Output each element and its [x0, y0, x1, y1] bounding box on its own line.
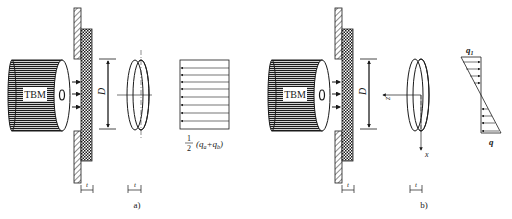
tbm-label: TBM	[284, 89, 306, 100]
wall-thickness: t	[81, 181, 93, 193]
caption-b: b)	[420, 200, 428, 210]
diameter-label: D	[357, 87, 368, 96]
axis-z-label: z	[383, 96, 392, 101]
linear-load-diagram: q1 q	[461, 45, 501, 147]
diagram-canvas: TBM D t	[0, 0, 512, 219]
tunnel-wall	[74, 8, 92, 183]
fraction-denominator: 2	[187, 144, 191, 153]
load-expression: (qa+qb)	[196, 139, 223, 150]
tunnel-wall	[335, 8, 353, 183]
disc-thickness: t	[410, 181, 422, 193]
thickness-label: t	[347, 181, 350, 189]
disc-plate	[117, 50, 152, 138]
uniform-load-diagram: 1 2 (qa+qb)	[180, 60, 229, 153]
axis-x-label: x	[424, 150, 429, 159]
caption-a: a)	[134, 200, 141, 210]
diameter-dimension: D	[357, 59, 377, 129]
load-top-label: q1	[466, 45, 474, 56]
fraction-numerator: 1	[187, 134, 191, 143]
panel-a: TBM D t	[8, 8, 229, 210]
disc-thickness: t	[128, 181, 141, 193]
thickness-label: t	[134, 181, 137, 189]
thickness-label: t	[415, 181, 418, 189]
tbm-machine: TBM	[8, 60, 70, 131]
diameter-dimension: D	[96, 59, 116, 129]
wall-thickness: t	[342, 181, 354, 193]
tbm-machine: TBM	[268, 60, 330, 131]
load-bottom-label: q	[489, 137, 494, 147]
diameter-label: D	[96, 87, 107, 96]
tbm-label: TBM	[24, 89, 46, 100]
thickness-label: t	[86, 181, 89, 189]
panel-b: TBM D t	[268, 8, 501, 210]
